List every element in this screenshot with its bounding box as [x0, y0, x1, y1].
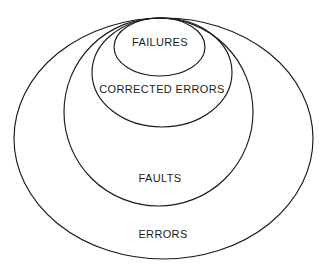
label-corrected-errors: CORRECTED ERRORS — [99, 83, 224, 95]
ellipse-errors — [14, 18, 313, 259]
label-faults: FAULTS — [139, 172, 182, 184]
label-errors: ERRORS — [138, 228, 187, 240]
label-failures: FAILURES — [132, 36, 188, 48]
venn-diagram: FAILURES CORRECTED ERRORS FAULTS ERRORS — [0, 0, 328, 277]
